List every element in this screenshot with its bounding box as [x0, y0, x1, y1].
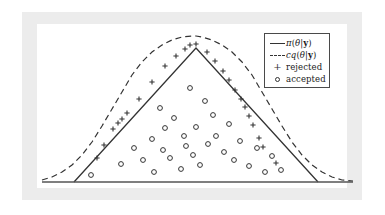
accepted-marker — [279, 168, 284, 173]
accepted-marker — [188, 86, 193, 91]
accepted-marker — [198, 163, 203, 168]
rejected-marker — [193, 41, 198, 46]
accepted-marker — [270, 154, 275, 159]
rejected-marker — [260, 144, 265, 149]
accepted-marker — [150, 137, 155, 142]
accepted-marker — [161, 148, 166, 153]
accepted-marker — [168, 156, 173, 161]
accepted-marker — [232, 158, 237, 163]
rejected-marker-group — [94, 41, 278, 165]
rejected-marker — [220, 68, 225, 73]
rejected-marker — [273, 160, 278, 165]
legend-label-proposal-density: cq(θ|y) — [286, 49, 316, 61]
accepted-marker — [182, 134, 187, 139]
accepted-marker — [214, 134, 219, 139]
accepted-marker — [179, 167, 184, 172]
rejected-marker — [242, 104, 247, 109]
accepted-marker — [263, 170, 268, 175]
circle-marker-icon — [269, 73, 286, 85]
accepted-marker — [184, 144, 189, 149]
accepted-marker — [227, 122, 232, 127]
rejected-marker — [136, 96, 141, 101]
accepted-marker — [158, 106, 163, 111]
rejected-marker — [246, 113, 251, 118]
accepted-marker — [191, 153, 196, 158]
rejected-marker — [124, 110, 129, 115]
rejected-marker — [250, 122, 255, 127]
rejected-marker — [94, 155, 99, 160]
legend-label-accepted: accepted — [286, 73, 326, 85]
rejected-marker — [119, 116, 124, 121]
accepted-marker — [203, 99, 208, 104]
accepted-marker — [211, 113, 216, 118]
accepted-marker — [152, 170, 157, 175]
legend-item-target-density: π(θ|y) — [269, 37, 325, 49]
legend-label-rejected: rejected — [286, 61, 322, 73]
dashed-line-icon — [269, 49, 286, 61]
accepted-marker — [172, 116, 177, 121]
accepted-marker — [163, 126, 168, 131]
legend-item-accepted: accepted — [269, 73, 325, 85]
accepted-marker — [238, 139, 243, 144]
legend-item-proposal-density: cq(θ|y) — [269, 49, 325, 61]
rejected-marker — [204, 49, 209, 54]
rejected-marker — [110, 126, 115, 131]
legend-label-target-density: π(θ|y) — [286, 37, 312, 49]
accepted-marker — [255, 146, 260, 151]
figure-root: π(θ|y) cq(θ|y) + rejected accepted — [0, 0, 385, 215]
accepted-marker — [119, 162, 124, 167]
rejected-marker — [173, 53, 178, 58]
solid-line-icon — [269, 37, 286, 49]
accepted-marker — [89, 173, 94, 178]
rejected-marker — [149, 79, 154, 84]
accepted-marker — [247, 164, 252, 169]
legend: π(θ|y) cq(θ|y) + rejected accepted — [264, 33, 330, 88]
accepted-marker — [141, 158, 146, 163]
rejected-marker — [115, 120, 120, 125]
accepted-marker — [206, 142, 211, 147]
rejected-marker — [162, 63, 167, 68]
rejected-marker — [212, 58, 217, 63]
rejected-marker — [187, 42, 192, 47]
rejected-marker — [182, 46, 187, 51]
legend-item-rejected: + rejected — [269, 61, 325, 73]
accepted-marker — [194, 125, 199, 130]
rejected-marker — [238, 96, 243, 101]
accepted-marker — [132, 146, 137, 151]
accepted-marker — [222, 150, 227, 155]
plus-marker-icon: + — [269, 61, 286, 73]
rejected-marker — [256, 135, 261, 140]
